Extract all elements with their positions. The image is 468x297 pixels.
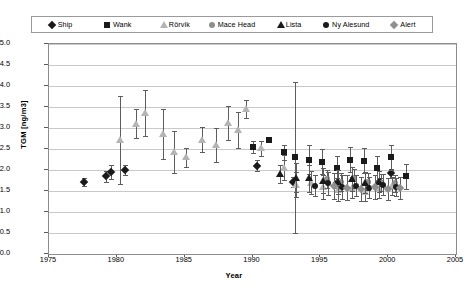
error-bar-cap bbox=[386, 178, 391, 179]
error-bar-cap bbox=[143, 136, 148, 137]
legend-marker-circle-icon bbox=[323, 21, 330, 28]
x-tick-label: 1975 bbox=[25, 256, 71, 263]
error-bar-cap bbox=[143, 90, 148, 91]
error-bar-cap bbox=[321, 199, 326, 200]
legend-item-rorvik[interactable]: Rörvik bbox=[146, 21, 203, 28]
error-bar-cap bbox=[278, 165, 283, 166]
error-bar-cap bbox=[386, 200, 391, 201]
x-tick-label: 1995 bbox=[296, 256, 342, 263]
error-bar-cap bbox=[214, 128, 219, 129]
error-bar-cap bbox=[214, 162, 219, 163]
error-bar-cap bbox=[109, 179, 114, 180]
error-bar-cap bbox=[226, 140, 231, 141]
error-bar-cap bbox=[282, 155, 287, 156]
x-tick-label: 1980 bbox=[93, 256, 139, 263]
error-bar-cap bbox=[172, 131, 177, 132]
error-bar-cap bbox=[332, 199, 337, 200]
error-bar-cap bbox=[363, 193, 368, 194]
y-tick-label: 0.5 bbox=[0, 228, 10, 235]
error-bar-cap bbox=[321, 193, 326, 194]
y-axis-label: TGM [ng/m3] bbox=[19, 80, 28, 170]
error-bar-cap bbox=[381, 174, 386, 175]
legend-marker-square-icon bbox=[104, 21, 111, 28]
legend-item-alert[interactable]: Alert bbox=[375, 21, 432, 28]
gridline bbox=[49, 107, 456, 108]
error-bar-cap bbox=[161, 109, 166, 110]
plot-area bbox=[48, 43, 457, 255]
error-bar-cap bbox=[313, 196, 318, 197]
error-bar-cap bbox=[350, 191, 355, 192]
legend-item-label: Ship bbox=[58, 21, 73, 28]
legend-item-ship[interactable]: Ship bbox=[32, 21, 89, 28]
error-bar-cap bbox=[389, 145, 394, 146]
legend-item-label: Ny Alesund bbox=[332, 21, 369, 28]
error-bar-cap bbox=[359, 201, 364, 202]
error-bar-cap bbox=[118, 96, 123, 97]
error-bar-cap bbox=[336, 201, 341, 202]
error-bar-cap bbox=[307, 145, 312, 146]
x-tick-label: 1985 bbox=[161, 256, 207, 263]
legend-marker-triangle-icon bbox=[277, 21, 284, 28]
y-tick-label: 4.5 bbox=[0, 60, 10, 67]
error-bar-cap bbox=[184, 167, 189, 168]
error-bar-cap bbox=[109, 165, 114, 166]
legend-item-wank[interactable]: Wank bbox=[89, 21, 146, 28]
error-bar-cap bbox=[350, 198, 355, 199]
error-bar-cap bbox=[282, 180, 287, 181]
error-bar-cap bbox=[367, 177, 372, 178]
error-bar-cap bbox=[345, 200, 350, 201]
error-bar-cap bbox=[259, 141, 264, 142]
error-bar-cap bbox=[161, 159, 166, 160]
error-bar-cap bbox=[118, 184, 123, 185]
error-bar-cap bbox=[294, 163, 299, 164]
error-bar-cap bbox=[393, 175, 398, 176]
error-bar-cap bbox=[332, 173, 337, 174]
error-bar-cap bbox=[320, 149, 325, 150]
error-bar-cap bbox=[350, 167, 355, 168]
gridline bbox=[49, 44, 456, 45]
error-bar-cap bbox=[293, 82, 298, 83]
error-bar-cap bbox=[134, 138, 139, 139]
y-tick-label: 0.0 bbox=[0, 249, 10, 256]
error-bar-cap bbox=[394, 196, 399, 197]
legend-item-macehead[interactable]: Mace Head bbox=[203, 21, 260, 28]
error-bar-cap bbox=[363, 172, 368, 173]
error-bar-cap bbox=[359, 177, 364, 178]
error-bar-cap bbox=[336, 194, 341, 195]
chart-page: ShipWankRörvikMace HeadListaNy AlesundAl… bbox=[0, 0, 468, 297]
error-bar-cap bbox=[251, 153, 256, 154]
legend-item-nyalesund[interactable]: Ny Alesund bbox=[318, 21, 375, 28]
legend-marker-diamond-icon bbox=[391, 21, 398, 28]
y-tick-label: 4.0 bbox=[0, 81, 10, 88]
gridline bbox=[49, 128, 456, 129]
legend-item-lista[interactable]: Lista bbox=[261, 21, 318, 28]
error-bar-cap bbox=[404, 164, 409, 165]
error-bar-cap bbox=[375, 156, 380, 157]
error-bar-cap bbox=[251, 141, 256, 142]
x-axis-label: Year bbox=[0, 271, 468, 280]
error-bar-cap bbox=[184, 148, 189, 149]
error-bar-cap bbox=[255, 171, 260, 172]
error-bar-cap bbox=[339, 173, 344, 174]
error-bar-cap bbox=[282, 145, 287, 146]
chart-legend: ShipWankRörvikMace HeadListaNy AlesundAl… bbox=[31, 16, 433, 33]
x-tick-label: 1990 bbox=[229, 256, 275, 263]
error-bar-cap bbox=[294, 197, 299, 198]
error-bar-cap bbox=[309, 194, 314, 195]
error-bar-cap bbox=[326, 172, 331, 173]
error-bar-cap bbox=[336, 170, 341, 171]
error-bar-cap bbox=[377, 171, 382, 172]
legend-item-label: Wank bbox=[113, 21, 132, 28]
gridline bbox=[49, 86, 456, 87]
error-bar-cap bbox=[381, 195, 386, 196]
legend-item-label: Mace Head bbox=[218, 21, 256, 28]
error-bar-cap bbox=[294, 192, 299, 193]
error-bar-cap bbox=[293, 233, 298, 234]
error-bar-cap bbox=[134, 109, 139, 110]
error-bar-cap bbox=[326, 195, 331, 196]
error-bar-cap bbox=[354, 175, 359, 176]
y-tick-label: 3.0 bbox=[0, 123, 10, 130]
x-tick-label: 2005 bbox=[432, 256, 468, 263]
error-bar-cap bbox=[307, 192, 312, 193]
legend-item-label: Lista bbox=[286, 21, 302, 28]
